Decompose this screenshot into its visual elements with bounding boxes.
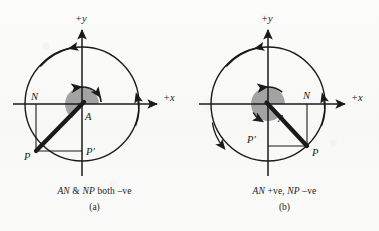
rotation-arrow-lower-left-b xyxy=(212,123,222,147)
figure-a-sublabel: (a) xyxy=(0,202,189,212)
y-axis-label-b: +y xyxy=(261,13,273,24)
x-axis-label-a: +x xyxy=(163,92,175,103)
caption-b-seg3: NP xyxy=(287,186,299,196)
caption-a-seg1: AN xyxy=(57,186,69,196)
angle-arc-arrow-right-a xyxy=(99,94,102,102)
point-label-n-b: N xyxy=(302,90,311,101)
point-label-p-prime-b: P′ xyxy=(246,134,256,145)
figure-a: +x +y N A P′ P AN & NP both –ve (a) xyxy=(0,0,189,231)
caption-b-seg4: –ve xyxy=(300,186,317,196)
figure-b-sublabel: (b) xyxy=(190,202,379,212)
figure-b: +x +y N A P′ P AN +ve, NP –ve (b) xyxy=(190,0,379,231)
x-axis-label-b: +x xyxy=(351,92,363,103)
radius-vector-ap-a xyxy=(36,102,84,151)
figure-b-diagram: +x +y N A P′ P xyxy=(190,0,379,185)
y-axis-label-a: +y xyxy=(75,13,87,24)
caption-b-seg1: AN xyxy=(253,186,265,196)
figure-a-caption: AN & NP both –ve xyxy=(0,186,189,196)
rotation-arrow-upper-left-b xyxy=(226,48,258,67)
radius-vector-ap-b xyxy=(267,103,308,147)
point-label-n-a: N xyxy=(30,91,39,102)
figure-b-caption: AN +ve, NP –ve xyxy=(190,186,379,196)
point-label-a-b: A xyxy=(277,113,285,124)
caption-a-seg2: & xyxy=(70,186,83,196)
figure-page: +x +y N A P′ P AN & NP both –ve (a) xyxy=(0,0,379,231)
caption-b-seg2: +ve, xyxy=(265,186,287,196)
point-label-p-prime-a: P′ xyxy=(85,146,95,157)
rotation-arrow-upper-left-a xyxy=(40,48,72,67)
point-label-p-a: P xyxy=(23,151,31,162)
figure-a-diagram: +x +y N A P′ P xyxy=(0,0,189,185)
caption-a-seg4: both –ve xyxy=(95,186,132,196)
point-label-a-a: A xyxy=(84,111,92,122)
caption-a-seg3: NP xyxy=(82,186,94,196)
point-label-p-b: P xyxy=(311,147,319,158)
